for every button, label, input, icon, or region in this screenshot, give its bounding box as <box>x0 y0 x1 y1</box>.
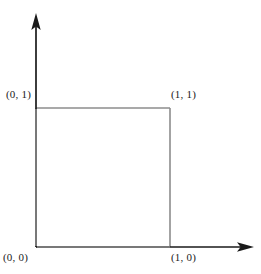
unit-square <box>36 108 170 247</box>
vertex-label-top-left: (0, 1) <box>6 88 31 100</box>
vertex-label-top-right: (1, 1) <box>171 88 196 100</box>
vertex-label-bottom-right: (1, 0) <box>171 251 196 263</box>
square-overlay-edges <box>36 109 170 247</box>
diagram-canvas <box>0 0 261 274</box>
coordinate-diagram: (0, 1) (1, 1) (0, 0) (1, 0) <box>0 0 261 274</box>
vertex-label-bottom-left: (0, 0) <box>3 251 28 263</box>
